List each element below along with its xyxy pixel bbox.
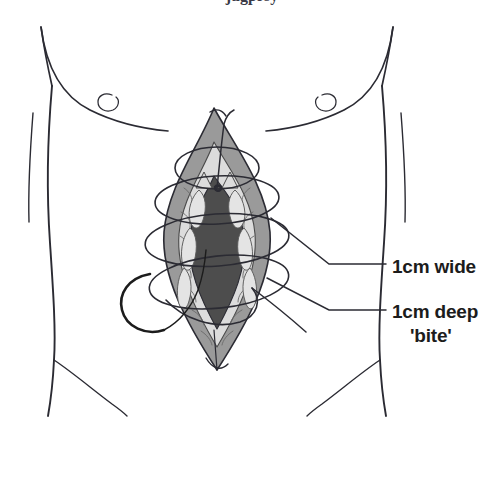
callout-leaders-group <box>267 218 386 310</box>
right-flank-line <box>379 86 386 416</box>
right-chest-curve <box>266 27 393 131</box>
curved-needle <box>121 274 164 332</box>
left-nipple-mark <box>98 94 118 111</box>
left-waist-accent <box>29 113 33 222</box>
right-groin-crease <box>307 360 380 416</box>
right-nipple-mark <box>316 94 336 111</box>
left-flank-line <box>48 86 55 416</box>
callout-leader-deep <box>267 278 386 310</box>
left-groin-crease <box>54 360 127 416</box>
surgical-illustration-figure: jugprsy 1cm wide 1cm deep 'bite' <box>0 0 504 479</box>
left-chest-curve <box>41 27 168 131</box>
illustration-canvas <box>0 0 504 479</box>
right-waist-accent <box>401 113 405 222</box>
